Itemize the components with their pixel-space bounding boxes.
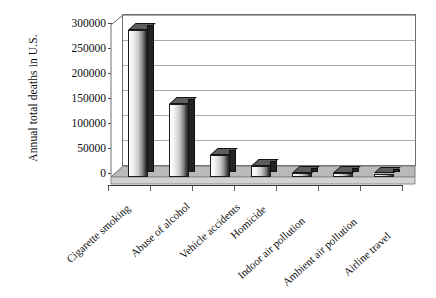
x-label-cigarette-smoking: Cigarette smoking [64,202,132,265]
bar-chart: Annual total deaths in U.S. 300000 25000… [0,0,436,298]
x-label-airline-travel: Airline travel [341,230,393,278]
x-axis-category-labels: Cigarette smoking Abuse of alcohol Vehic… [0,0,436,298]
